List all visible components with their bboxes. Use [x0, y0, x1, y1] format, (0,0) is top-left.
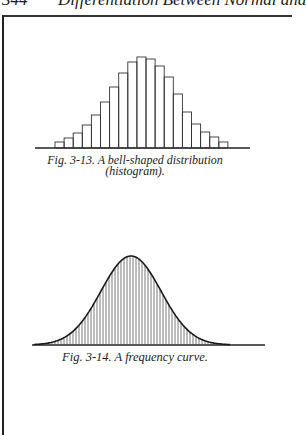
figure-3-14-caption: Fig. 3-14. A frequency curve. — [0, 352, 270, 363]
frequency-curve-figure — [0, 0, 270, 360]
frequency-curve-line — [34, 256, 230, 345]
